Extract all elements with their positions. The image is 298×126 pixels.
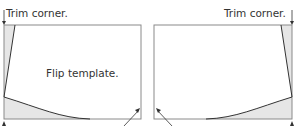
left-corner-arrow-icon (124, 110, 139, 126)
right-trim-shade-bottom (206, 97, 292, 119)
right-trim-corner-label: Trim corner. (224, 8, 286, 19)
left-bottom-marker-icon (2, 121, 6, 126)
flip-template-label: Flip template. (46, 68, 119, 79)
right-panel (154, 10, 294, 126)
left-trim-corner-label: Trim corner. (6, 8, 68, 19)
right-corner-arrow-icon (157, 110, 172, 126)
left-trim-shade-bottom (4, 97, 90, 119)
right-bottom-marker-icon (290, 121, 294, 126)
